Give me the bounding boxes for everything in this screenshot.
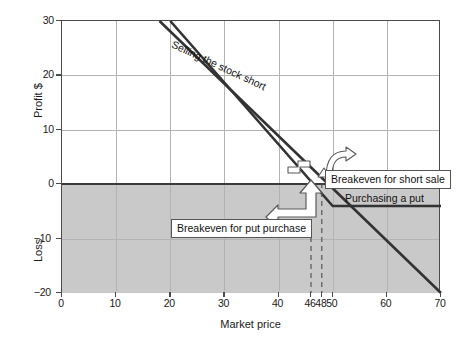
- x-tick-label-70: 70: [430, 297, 450, 309]
- callout-purchasing-a-put: Purchasing a put: [340, 190, 429, 207]
- y-tick-label-minus10: −10: [11, 232, 51, 244]
- x-tick-label-0: 0: [55, 297, 67, 309]
- x-axis-label: Market price: [61, 318, 440, 330]
- callout-breakeven-short-sale: Breakeven for short sale: [325, 170, 451, 189]
- y-axis-label-profit: Profit $: [32, 83, 44, 118]
- y-tick-label-10: 10: [14, 123, 54, 135]
- y-tick-label-20: 20: [14, 68, 54, 80]
- x-tick-label-60: 60: [376, 297, 396, 309]
- callout-leader-purchasing-put: [288, 161, 310, 173]
- series-overlay: [62, 21, 441, 293]
- x-tick-label-30: 30: [213, 297, 233, 309]
- chart-figure: 30 20 10 0 −10 −20 Profit $ Loss: [0, 0, 472, 339]
- x-tick-label-40: 40: [268, 297, 288, 309]
- y-axis-label-loss: Loss: [32, 239, 44, 262]
- y-tick-label-minus20: −20: [11, 286, 51, 298]
- x-tick-label-50: 50: [322, 297, 341, 309]
- callout-breakeven-put-purchase: Breakeven for put purchase: [171, 219, 312, 238]
- y-tick-label-30: 30: [14, 14, 54, 26]
- x-tick-label-20: 20: [159, 297, 179, 309]
- y-tick-label-0: 0: [14, 177, 54, 189]
- x-tick-label-10: 10: [105, 297, 125, 309]
- plot-area: [61, 20, 440, 292]
